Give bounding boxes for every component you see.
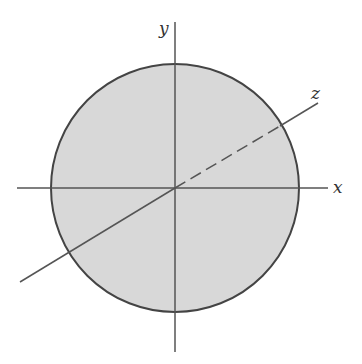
z-axis-front bbox=[280, 103, 318, 126]
sphere-axes-diagram: x y z bbox=[0, 0, 362, 364]
x-label: x bbox=[333, 177, 343, 197]
y-label: y bbox=[158, 18, 169, 38]
z-label: z bbox=[310, 83, 321, 103]
